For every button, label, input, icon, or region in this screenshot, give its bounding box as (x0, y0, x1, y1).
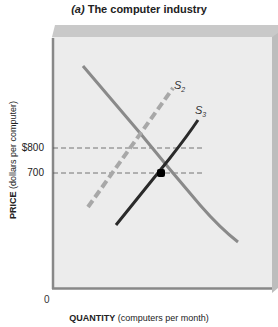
panel-top-bevel (52, 25, 278, 37)
equilibrium-point (157, 169, 165, 177)
s2-label: S2 (174, 79, 185, 93)
origin-label: 0 (44, 294, 50, 305)
s3-label: S3 (195, 104, 206, 118)
panel-right-side (272, 33, 278, 293)
chart-plot (0, 0, 278, 327)
y-axis-label: PRICE (dollars per computer) (8, 85, 18, 235)
x-axis-label: QUANTITY (computers per month) (0, 313, 278, 323)
panel-front (52, 37, 272, 288)
